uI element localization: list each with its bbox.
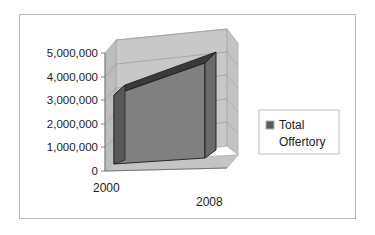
ytick-label-5000000: 5,000,000 (47, 47, 98, 59)
legend[interactable]: Total Offertory (259, 110, 339, 154)
y-axis-labels: 5,000,000 4,000,000 3,000,000 2,000,000 … (47, 47, 98, 177)
legend-label-line1: Total (279, 118, 304, 132)
ytick-label-4000000: 4,000,000 (47, 71, 98, 83)
y-axis-ticks (101, 53, 105, 171)
series-right-end-cap (205, 52, 216, 158)
ytick-label-0: 0 (92, 165, 98, 177)
xtick-label-2008: 2008 (196, 195, 223, 209)
series-left-end-cap (114, 85, 125, 164)
ytick-label-3000000: 3,000,000 (47, 94, 98, 106)
chart-canvas: 5,000,000 4,000,000 3,000,000 2,000,000 … (0, 0, 375, 235)
xtick-label-2000: 2000 (93, 181, 120, 195)
x-axis-labels: 2000 2008 (93, 181, 223, 209)
legend-label-line2: Offertory (279, 135, 325, 149)
ytick-label-1000000: 1,000,000 (47, 141, 98, 153)
legend-swatch-total-offertory (266, 121, 274, 129)
right-side-wall (227, 29, 238, 155)
ytick-label-2000000: 2,000,000 (47, 118, 98, 130)
